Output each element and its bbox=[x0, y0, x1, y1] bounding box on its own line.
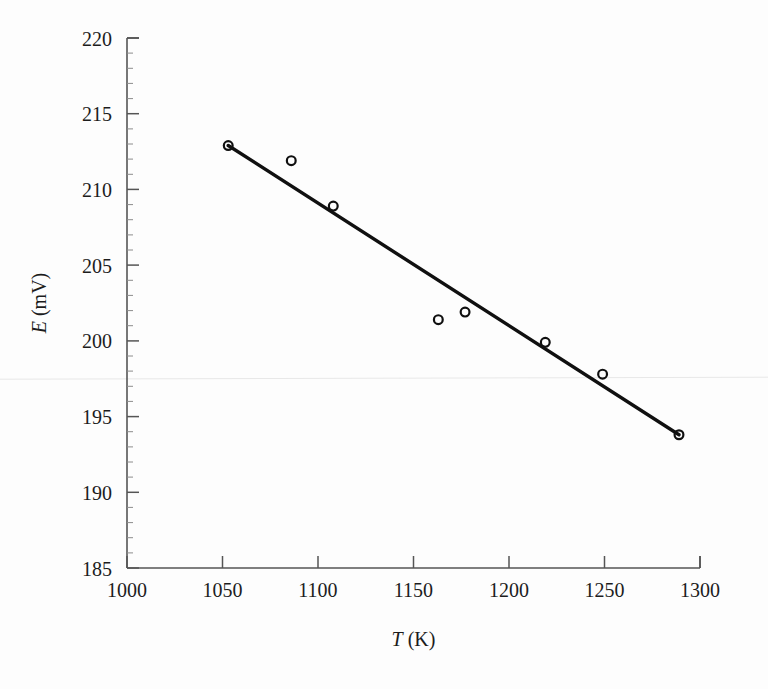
y-axis-title-unit: (mV) bbox=[28, 273, 51, 321]
x-tick-label: 1050 bbox=[203, 579, 243, 601]
x-tick-label: 1150 bbox=[394, 579, 433, 601]
x-tick-label: 1300 bbox=[680, 579, 720, 601]
x-tick-label: 1000 bbox=[107, 579, 147, 601]
x-tick-labels: 1000 1050 1100 1150 1200 1250 1300 bbox=[107, 579, 720, 601]
y-tick-label: 190 bbox=[82, 482, 112, 504]
y-major-ticks bbox=[127, 38, 139, 568]
scatter-plot: 185 190 195 200 205 210 215 220 1000 105… bbox=[0, 0, 768, 689]
x-axis-title-unit: (K) bbox=[403, 628, 436, 651]
y-tick-label: 220 bbox=[82, 28, 112, 50]
data-point bbox=[434, 315, 443, 324]
linear-fit-line bbox=[228, 146, 679, 435]
data-point bbox=[329, 202, 338, 211]
y-minor-ticks bbox=[127, 53, 133, 553]
data-point bbox=[461, 308, 470, 317]
y-tick-label: 210 bbox=[82, 179, 112, 201]
data-point bbox=[541, 338, 550, 347]
y-tick-label: 185 bbox=[82, 558, 112, 580]
y-tick-label: 195 bbox=[82, 406, 112, 428]
y-tick-label: 200 bbox=[82, 330, 112, 352]
y-tick-label: 205 bbox=[82, 255, 112, 277]
scan-artifact-line bbox=[0, 377, 768, 379]
x-tick-label: 1100 bbox=[298, 579, 337, 601]
chart-figure: 185 190 195 200 205 210 215 220 1000 105… bbox=[0, 0, 768, 689]
y-axis-title-symbol: E bbox=[28, 321, 50, 334]
axes-group bbox=[127, 38, 700, 568]
x-tick-label: 1200 bbox=[489, 579, 529, 601]
data-point bbox=[287, 156, 296, 165]
x-axis-title: T (K) bbox=[392, 628, 436, 651]
y-tick-label: 215 bbox=[82, 103, 112, 125]
x-tick-label: 1250 bbox=[585, 579, 625, 601]
y-tick-labels: 185 190 195 200 205 210 215 220 bbox=[82, 28, 112, 580]
y-axis-title: E (mV) bbox=[28, 273, 51, 335]
x-major-ticks bbox=[127, 556, 700, 568]
